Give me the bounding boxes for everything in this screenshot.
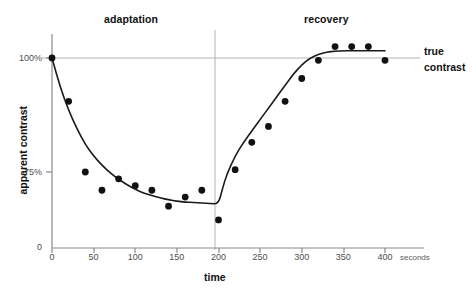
y-tick-label-75: 75% — [8, 168, 42, 177]
x-axis-title: time — [204, 272, 226, 283]
data-point — [182, 194, 189, 201]
data-point — [365, 43, 372, 50]
x-tick-label-50: 50 — [79, 253, 109, 262]
phase-label-adaptation: adaptation — [104, 14, 158, 25]
data-point — [265, 123, 272, 130]
x-tick-label-0: 0 — [37, 253, 67, 262]
fitted-curve — [52, 51, 385, 204]
true-contrast-annotation-line2: contrast — [424, 62, 465, 73]
x-tick-label-200: 200 — [204, 253, 234, 262]
data-point — [332, 43, 339, 50]
true-contrast-annotation-line1: true — [424, 46, 444, 57]
data-point — [132, 182, 139, 189]
data-point — [215, 216, 222, 223]
data-point — [298, 75, 305, 82]
chart-figure: adaptation recovery time apparent contra… — [0, 0, 476, 292]
phase-label-recovery: recovery — [304, 14, 349, 25]
data-point-group — [49, 43, 389, 223]
x-tick-label-100: 100 — [120, 253, 150, 262]
data-point — [65, 98, 72, 105]
data-point — [232, 166, 239, 173]
data-point — [115, 175, 122, 182]
data-point — [315, 57, 322, 64]
x-tick-label-300: 300 — [287, 253, 317, 262]
data-point — [165, 203, 172, 210]
data-point — [198, 187, 205, 194]
y-tick-label-0: 0 — [8, 243, 42, 252]
x-tick-label-250: 250 — [245, 253, 275, 262]
data-point — [348, 43, 355, 50]
data-point — [382, 57, 389, 64]
x-tick-label-350: 350 — [328, 253, 358, 262]
x-tick-label-150: 150 — [162, 253, 192, 262]
data-point — [99, 187, 106, 194]
x-tick-label-400: 400 — [370, 253, 400, 262]
y-axis-ticks — [46, 58, 52, 172]
x-axis-unit-label: seconds — [400, 254, 430, 262]
y-tick-label-100: 100% — [8, 54, 42, 63]
chart-plot-area — [0, 0, 476, 292]
data-point — [282, 98, 289, 105]
data-point — [149, 187, 156, 194]
data-point — [49, 55, 56, 62]
y-axis-title: apparent contrast — [18, 95, 29, 205]
data-point — [82, 169, 89, 176]
data-point — [248, 139, 255, 146]
